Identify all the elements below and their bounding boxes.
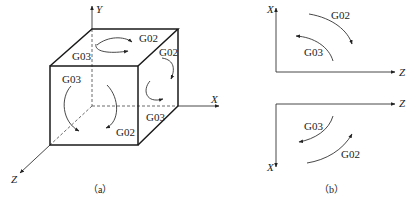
upper-g02-label: G02	[331, 9, 350, 21]
z-axis-label: Z	[11, 173, 18, 185]
top-g02-label: G02	[139, 32, 158, 44]
panel-b-lower-diagram: X Z G03 G02 （b）	[266, 97, 406, 195]
front-g03-label: G03	[62, 73, 81, 85]
upper-x-axis-label: X	[266, 3, 275, 15]
panel-a-cube-diagram: Y X Z G02 G03 G02 G03 G03 G02 （a）	[11, 3, 219, 195]
front-g02-arc-icon	[106, 85, 117, 128]
panel-b-caption: （b）	[319, 184, 344, 195]
y-axis-label: Y	[96, 3, 104, 15]
interpolation-direction-figure: Y X Z G02 G03 G02 G03 G03 G02 （a） X Z	[0, 0, 412, 212]
right-g03-label: G03	[146, 111, 165, 123]
front-g03-arc-icon	[64, 86, 79, 131]
lower-g03-label: G03	[304, 120, 323, 132]
right-g02-arc-icon	[162, 58, 173, 79]
top-g03-label: G03	[72, 50, 91, 62]
z-axis-arrow	[20, 145, 50, 173]
hidden-edge-z	[50, 106, 92, 145]
right-g03-arc-icon	[146, 81, 163, 100]
x-axis-label: X	[210, 93, 219, 105]
top-g02-arc-icon	[97, 38, 132, 45]
lower-z-axis-label: Z	[399, 97, 406, 109]
lower-x-axis-label: X	[266, 161, 275, 173]
upper-g03-label: G03	[304, 46, 323, 58]
front-g02-label: G02	[116, 126, 135, 138]
upper-z-axis-label: Z	[399, 66, 406, 78]
panel-a-caption: （a）	[88, 184, 112, 195]
top-g03-arc-icon	[96, 44, 128, 52]
panel-b-upper-diagram: X Z G02 G03	[266, 3, 406, 78]
right-g02-label: G02	[159, 46, 178, 58]
lower-g02-label: G02	[341, 148, 360, 160]
